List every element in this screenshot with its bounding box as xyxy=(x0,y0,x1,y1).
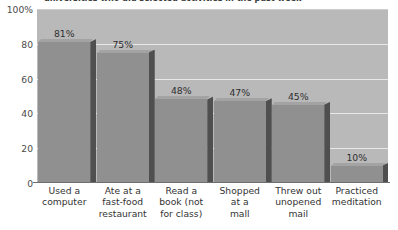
y-axis-tick-label: 100% xyxy=(7,4,33,15)
bar-top-face xyxy=(272,102,327,105)
bar-top-face xyxy=(97,50,152,53)
y-axis-tick-label: 60 xyxy=(21,73,33,84)
bar xyxy=(97,53,149,184)
bar-side-face xyxy=(207,96,213,183)
bar-value-label: 48% xyxy=(171,85,192,96)
bar-top-face xyxy=(331,163,386,166)
bar xyxy=(38,42,90,183)
bar-value-label: 75% xyxy=(112,39,133,50)
chart-caption: universities who did selected activities… xyxy=(44,0,384,3)
y-axis-tick-label: 20 xyxy=(21,143,33,154)
bar-side-face xyxy=(383,163,388,183)
bar-value-label: 45% xyxy=(288,91,309,102)
bar-value-label: 47% xyxy=(229,87,250,98)
plot-area xyxy=(37,9,388,183)
bar-top-face xyxy=(155,96,210,99)
y-axis-labels: 020406080100% xyxy=(0,9,33,183)
bar-top-face xyxy=(214,98,269,101)
x-axis-line xyxy=(33,182,390,183)
plot-top-edge xyxy=(37,9,388,10)
x-axis-category-label: Practiced meditation xyxy=(322,185,393,208)
bar xyxy=(155,99,207,183)
x-axis-labels: Used a computerAte at a fast-food restau… xyxy=(37,185,388,230)
bar xyxy=(331,166,383,183)
bar-side-face xyxy=(149,50,155,184)
bar-value-label: 10% xyxy=(346,152,367,163)
bar-side-face xyxy=(266,98,272,183)
y-axis-tick-label: 40 xyxy=(21,108,33,119)
bar-side-face xyxy=(324,102,330,183)
bar xyxy=(214,101,266,183)
bar-side-face xyxy=(90,39,96,183)
bar xyxy=(272,105,324,183)
chart-screenshot: universities who did selected activities… xyxy=(0,0,398,230)
bar-value-label: 81% xyxy=(54,28,75,39)
y-axis-tick-label: 80 xyxy=(21,38,33,49)
bar-top-face xyxy=(38,39,93,42)
